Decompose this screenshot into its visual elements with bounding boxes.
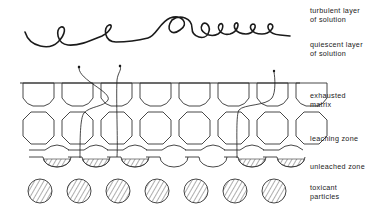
diffusion-path-1 <box>79 68 108 158</box>
label-quiescent-layer: quiescent layer of solution <box>310 41 363 58</box>
label-leaching-zone: leaching zone <box>310 135 358 144</box>
toxicant-particle <box>184 179 208 203</box>
toxicant-particle <box>67 179 91 203</box>
toxicant-particle <box>262 179 286 203</box>
turbulent-flow-line <box>25 17 290 46</box>
toxicant-particle <box>145 179 169 203</box>
toxicant-particle <box>28 179 52 203</box>
label-toxicant-particles: toxicant particles <box>310 184 339 201</box>
diffusion-paths <box>78 65 275 158</box>
diffusion-path-2 <box>117 66 121 157</box>
label-unleached-zone: unleached zone <box>310 163 365 172</box>
matrix-cells <box>20 83 327 167</box>
toxicant-particle <box>106 179 130 203</box>
toxicant-particle <box>223 179 247 203</box>
label-exhausted-matrix: exhausted matrix <box>310 92 346 109</box>
leaching-zone-pockets <box>44 159 304 167</box>
label-turbulent-layer: turbulent layer of solution <box>310 7 360 24</box>
toxicant-particles <box>28 179 286 203</box>
